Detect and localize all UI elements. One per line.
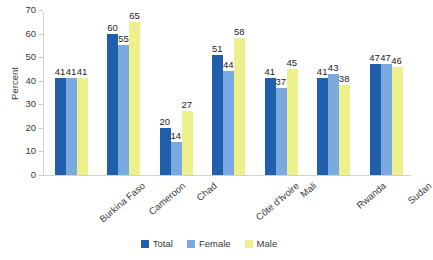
bar-group: 201427: [157, 10, 196, 175]
x-axis-label: Mali: [298, 180, 318, 200]
y-axis-tick-label: 10: [10, 145, 36, 156]
legend-item[interactable]: Total: [141, 238, 173, 249]
legend-label: Total: [153, 238, 173, 249]
legend-item[interactable]: Male: [245, 238, 278, 249]
legend-label: Male: [257, 238, 278, 249]
bar-value-label: 27: [178, 99, 196, 110]
bar-total: [317, 78, 328, 175]
plot-area: 4141416055652014275144584137454143384747…: [44, 10, 411, 175]
bar-group: 413745: [262, 10, 301, 175]
y-axis-tick-label: 60: [10, 28, 36, 39]
bar-value-label: 46: [388, 55, 406, 66]
x-axis-label: Côte d'Ivoire: [254, 180, 302, 223]
bar-female: [223, 71, 234, 175]
y-axis-tick-label: 30: [10, 98, 36, 109]
bar-male: [339, 85, 350, 175]
bar-value-label: 38: [335, 73, 353, 84]
bar-male: [392, 67, 403, 175]
bar-total: [212, 55, 223, 175]
bar-male: [129, 22, 140, 175]
y-axis-tick-label: 40: [10, 75, 36, 86]
bar-male: [182, 111, 193, 175]
bar-value-label: 45: [283, 57, 301, 68]
y-axis-tick-label: 70: [10, 4, 36, 15]
bar-female: [118, 45, 129, 175]
bar-female: [66, 78, 77, 175]
bar-male: [77, 78, 88, 175]
bar-female: [171, 142, 182, 175]
bar-female: [276, 88, 287, 175]
legend-item[interactable]: Female: [187, 238, 231, 249]
bar-male: [287, 69, 298, 175]
bar-female: [381, 64, 392, 175]
y-axis-tick-mark: [39, 10, 43, 11]
bar-value-label: 65: [125, 10, 143, 21]
x-axis-label: Rwanda: [354, 180, 388, 211]
y-axis-tick-label: 20: [10, 122, 36, 133]
y-axis-tick-label: 50: [10, 51, 36, 62]
bar-total: [55, 78, 66, 175]
bar-value-label: 20: [156, 116, 174, 127]
x-axis-label: Sudan: [405, 180, 433, 206]
bar-male: [234, 38, 245, 175]
chart-legend: TotalFemaleMale: [0, 238, 418, 249]
legend-label: Female: [199, 238, 231, 249]
bar-total: [265, 78, 276, 175]
bar-group: 605565: [104, 10, 143, 175]
bar-value-label: 43: [324, 62, 342, 73]
bar-total: [107, 34, 118, 175]
bar-female: [328, 74, 339, 175]
bar-value-label: 51: [208, 43, 226, 54]
bar-value-label: 58: [230, 26, 248, 37]
x-axis-label: Burkina Faso: [97, 180, 147, 224]
bar-group: 414338: [314, 10, 353, 175]
x-axis-line: [43, 175, 411, 176]
legend-swatch-icon: [245, 240, 253, 248]
cropped-title-artifact: [40, 0, 340, 5]
legend-swatch-icon: [187, 240, 195, 248]
bar-value-label: 41: [73, 66, 91, 77]
bar-value-label: 60: [103, 22, 121, 33]
bar-total: [370, 64, 381, 175]
y-axis-tick-label: 0: [10, 169, 36, 180]
legend-swatch-icon: [141, 240, 149, 248]
bar-group: 514458: [209, 10, 248, 175]
x-axis-label: Cameroon: [147, 180, 188, 217]
bar-group: 414141: [52, 10, 91, 175]
x-axis-label: Chad: [194, 180, 218, 203]
bar-group: 474746: [367, 10, 406, 175]
